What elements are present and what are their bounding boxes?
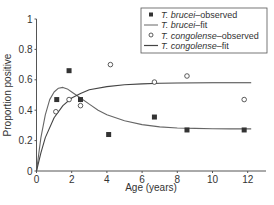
x-tick-label: 4: [104, 174, 110, 185]
fit-line: [37, 83, 252, 171]
series-layer: [37, 62, 252, 171]
legend-marker-square-icon: [149, 13, 153, 17]
legend-item-congolense-observed: T. congolense–observed: [161, 31, 259, 41]
y-tick-label: 1: [27, 14, 33, 25]
data-point-circle: [78, 103, 83, 108]
legend-item-congolense-fit: T. congolense–fit: [161, 41, 229, 51]
legend-item-brucei-fit: T. brucei–fit: [161, 20, 208, 30]
y-tick-label: 0.6: [19, 74, 33, 85]
legend-item-brucei-observed: T. brucei–observed: [161, 10, 237, 20]
x-tick-label: 0: [34, 174, 40, 185]
x-axis-label: Age (years): [125, 182, 177, 193]
y-tick-label: 0: [27, 166, 33, 177]
data-point-square: [54, 97, 59, 102]
data-point-circle: [108, 62, 113, 67]
x-tick-label: 12: [242, 174, 254, 185]
legend: T. brucei–observed T. brucei–fit T. cong…: [141, 8, 267, 53]
legend-marker-circle-icon: [149, 33, 153, 37]
data-point-square: [67, 68, 72, 73]
data-point-square: [242, 127, 247, 132]
data-point-circle: [54, 109, 59, 114]
y-tick-label: 0.4: [19, 105, 33, 116]
data-point-square: [184, 127, 189, 132]
data-point-square: [106, 132, 111, 137]
data-point-circle: [185, 74, 190, 79]
data-point-square: [78, 97, 83, 102]
data-point-circle: [67, 97, 72, 102]
data-point-circle: [152, 80, 157, 85]
y-tick-label: 0.2: [19, 135, 33, 146]
x-tick-label: 2: [69, 174, 75, 185]
y-axis-label: Proportion positive: [2, 53, 13, 136]
data-point-circle: [242, 97, 247, 102]
y-tick-label: 0.8: [19, 44, 33, 55]
data-point-square: [152, 115, 157, 120]
x-tick-label: 10: [207, 174, 219, 185]
chart: 02468101200.20.40.60.81 T. brucei–observ…: [0, 0, 274, 205]
